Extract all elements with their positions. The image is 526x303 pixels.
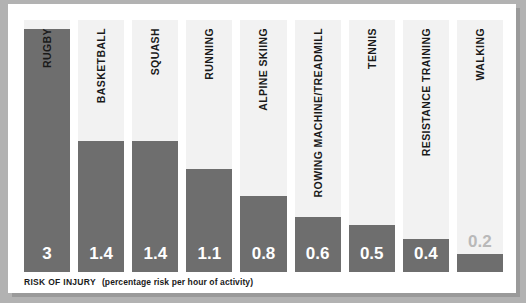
bar-rect[interactable] — [457, 254, 503, 272]
category-label: SQUASH — [150, 28, 161, 75]
chart-frame: RUGBY3BASKETBALL1.4SQUASH1.4RUNNING1.1AL… — [0, 0, 526, 303]
chart-panel: RUGBY3BASKETBALL1.4SQUASH1.4RUNNING1.1AL… — [8, 4, 516, 293]
chart-caption: RISK OF INJURY(percentage risk per hour … — [24, 278, 253, 287]
category-label: ROWING MACHINE/TREADMILL — [312, 28, 323, 197]
bar-value-label: 0.2 — [457, 233, 503, 250]
bar-value-label: 1.4 — [132, 245, 178, 262]
bar-column[interactable]: RUGBY3 — [24, 20, 70, 272]
category-label: WALKING — [475, 28, 486, 80]
bar-value-label: 0.5 — [349, 245, 395, 262]
category-label: RUNNING — [204, 28, 215, 80]
category-label: BASKETBALL — [96, 28, 107, 103]
bar-column[interactable]: BASKETBALL1.4 — [78, 20, 124, 272]
bar-column[interactable]: ROWING MACHINE/TREADMILL0.6 — [295, 20, 341, 272]
bar-column[interactable]: ALPINE SKIING0.8 — [240, 20, 286, 272]
bar-value-label: 3 — [24, 245, 70, 262]
bar-column[interactable]: RUNNING1.1 — [186, 20, 232, 272]
caption-title: RISK OF INJURY — [24, 277, 96, 287]
category-label: RESISTANCE TRAINING — [421, 28, 432, 156]
bar-column[interactable]: WALKING0.2 — [457, 20, 503, 272]
bar-value-label: 0.6 — [295, 245, 341, 262]
bar-column[interactable]: SQUASH1.4 — [132, 20, 178, 272]
bar-value-label: 1.1 — [186, 245, 232, 262]
bar-rect[interactable] — [24, 29, 70, 272]
category-label: TENNIS — [366, 28, 377, 69]
bar-value-label: 0.4 — [403, 245, 449, 262]
caption-note: (percentage risk per hour of activity) — [102, 277, 253, 287]
bar-value-label: 0.8 — [240, 245, 286, 262]
bar-column[interactable]: RESISTANCE TRAINING0.4 — [403, 20, 449, 272]
bar-chart-plot-area: RUGBY3BASKETBALL1.4SQUASH1.4RUNNING1.1AL… — [24, 20, 503, 272]
bar-value-label: 1.4 — [78, 245, 124, 262]
category-label: ALPINE SKIING — [258, 28, 269, 111]
bar-column[interactable]: TENNIS0.5 — [349, 20, 395, 272]
